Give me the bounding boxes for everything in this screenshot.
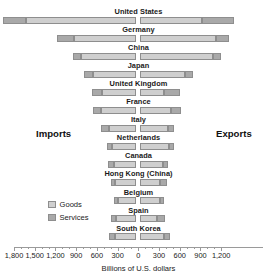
export-services-segment [160, 179, 166, 186]
export-goods-segment [140, 17, 202, 24]
export-services-segment [171, 107, 181, 114]
chart-row: Canada [0, 152, 277, 168]
axis-tick-minor [145, 247, 146, 249]
chart-row: South Korea [0, 225, 277, 241]
bar-group [0, 71, 277, 78]
import-goods-segment [114, 161, 137, 168]
import-services-segment [111, 215, 116, 222]
export-services-segment [164, 233, 170, 240]
import-services-segment [114, 197, 119, 204]
country-label: Hong Kong (China) [0, 170, 277, 178]
import-goods-segment [81, 53, 136, 60]
bar-group [0, 143, 277, 150]
export-services-segment [213, 53, 221, 60]
bar-group [0, 53, 277, 60]
export-services-segment [160, 197, 165, 204]
export-services-segment [216, 35, 229, 42]
axis-tick-minor [194, 247, 195, 249]
chart-row: Hong Kong (China) [0, 170, 277, 186]
chart-row: Belgium [0, 189, 277, 205]
bar-group [0, 179, 277, 186]
country-label: South Korea [0, 225, 277, 233]
import-goods-segment [93, 71, 136, 78]
export-services-segment [157, 215, 165, 222]
chart-row: France [0, 98, 277, 114]
axis-tick-minor [152, 247, 153, 249]
export-goods-segment [140, 35, 216, 42]
chart-legend: GoodsServices [48, 199, 89, 225]
import-goods-segment [115, 233, 136, 240]
export-services-segment [185, 71, 193, 78]
axis-tick-label: 0 [136, 251, 140, 260]
chart-row: United States [0, 8, 277, 24]
import-goods-segment [102, 89, 137, 96]
x-axis: Billions of U.S. dollars 1,8001,5001,200… [0, 247, 277, 278]
axis-tick-minor [207, 247, 208, 249]
country-label: France [0, 98, 277, 106]
import-goods-segment [74, 35, 136, 42]
import-goods-segment [118, 197, 136, 204]
import-services-segment [73, 53, 81, 60]
trade-bar-chart: United StatesGermanyChinaJapanUnited Kin… [0, 0, 277, 278]
bar-group [0, 107, 277, 114]
export-goods-segment [140, 53, 213, 60]
export-goods-segment [140, 161, 163, 168]
import-services-segment [84, 71, 93, 78]
axis-tick-minor [90, 247, 91, 249]
axis-tick-label: 300 [111, 251, 123, 260]
chart-row: China [0, 44, 277, 60]
import-services-segment [93, 107, 101, 114]
axis-tick-minor [28, 247, 29, 249]
axis-tick-label: 1,200 [212, 251, 231, 260]
export-goods-segment [140, 89, 164, 96]
import-goods-segment [112, 143, 136, 150]
axis-tick-minor [62, 247, 63, 249]
export-services-segment [163, 161, 167, 168]
bar-group [0, 35, 277, 42]
axis-tick-minor [83, 247, 84, 249]
axis-tick-minor [111, 247, 112, 249]
legend-label: Services [60, 213, 89, 222]
axis-tick-minor [21, 247, 22, 249]
axis-tick-label: 900 [70, 251, 82, 260]
export-services-segment [169, 143, 175, 150]
country-label: Italy [0, 116, 277, 124]
bar-group [0, 233, 277, 240]
bar-group [0, 17, 277, 24]
export-goods-segment [140, 71, 185, 78]
chart-row: United Kingdom [0, 80, 277, 96]
axis-tick-minor [49, 247, 50, 249]
export-goods-segment [140, 233, 164, 240]
import-goods-segment [101, 107, 136, 114]
import-services-segment [108, 161, 114, 168]
export-goods-segment [140, 125, 168, 132]
import-goods-segment [109, 125, 137, 132]
axis-tick-minor [104, 247, 105, 249]
axis-tick-minor [214, 247, 215, 249]
bar-group [0, 89, 277, 96]
legend-swatch-icon [48, 201, 56, 208]
axis-title: Billions of U.S. dollars [0, 264, 277, 273]
legend-item: Services [48, 212, 89, 223]
plot-area: United StatesGermanyChinaJapanUnited Kin… [0, 8, 277, 244]
country-label: Belgium [0, 189, 277, 197]
import-services-segment [107, 143, 113, 150]
axis-tick-label: 1,200 [46, 251, 65, 260]
country-label: China [0, 44, 277, 52]
axis-tick-minor [69, 247, 70, 249]
legend-label: Goods [60, 200, 82, 209]
imports-caption: Imports [36, 128, 71, 139]
export-services-segment [202, 17, 233, 24]
legend-item: Goods [48, 199, 89, 210]
country-label: United Kingdom [0, 80, 277, 88]
export-services-segment [164, 89, 179, 96]
export-goods-segment [140, 107, 170, 114]
axis-tick-minor [166, 247, 167, 249]
import-goods-segment [26, 17, 136, 24]
import-services-segment [92, 89, 102, 96]
axis-tick-minor [131, 247, 132, 249]
export-services-segment [168, 125, 174, 132]
country-label: Spain [0, 207, 277, 215]
exports-caption: Exports [216, 128, 252, 139]
axis-tick-label: 1,500 [25, 251, 44, 260]
